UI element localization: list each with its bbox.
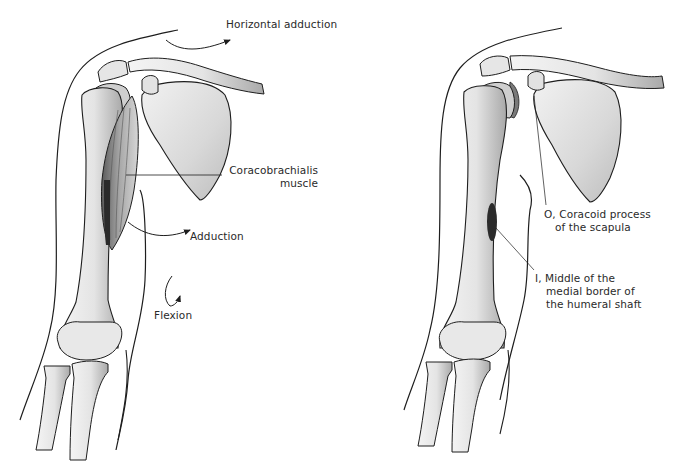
adduction-arrow — [128, 222, 190, 236]
label-text: Horizontal adduction — [226, 18, 337, 30]
right-scapula — [534, 80, 621, 202]
left-coracoid — [142, 76, 158, 95]
label-text: Flexion — [154, 309, 192, 321]
left-acromion — [98, 60, 128, 82]
label-text: the humeral shaft — [535, 298, 641, 311]
right-elbow — [439, 322, 506, 360]
label-flexion: Flexion — [154, 309, 192, 322]
label-horizontal-adduction: Horizontal adduction — [226, 18, 337, 31]
label-text: O, Coracoid process — [544, 208, 651, 221]
label-text: of the scapula — [544, 221, 651, 234]
horizontal-adduction-arrow — [166, 40, 230, 49]
insertion-mark — [487, 203, 497, 241]
left-elbow — [57, 322, 122, 360]
label-origin: O, Coracoid process of the scapula — [544, 208, 651, 234]
anatomy-figure: Horizontal adduction Coracobrachialis mu… — [0, 0, 690, 470]
flexion-arrow — [165, 276, 180, 306]
label-text: I, Middle of the — [535, 272, 641, 285]
label-insertion: I, Middle of the medial border of the hu… — [535, 272, 641, 311]
left-arm-drawing — [20, 30, 264, 460]
label-text: medial border of — [535, 285, 641, 298]
right-acromion — [480, 56, 510, 76]
label-coracobrachialis-muscle: Coracobrachialis muscle — [218, 164, 318, 190]
right-arm-drawing — [404, 28, 664, 452]
illustration — [0, 0, 690, 470]
label-text: muscle — [218, 177, 318, 190]
left-radius — [36, 366, 70, 450]
right-ulna — [452, 359, 490, 452]
label-text: Adduction — [190, 230, 244, 242]
right-armpit-outline — [500, 175, 532, 400]
label-adduction: Adduction — [190, 230, 244, 243]
right-coracoid — [528, 72, 544, 91]
right-radius — [418, 362, 452, 446]
label-text: Coracobrachialis — [218, 164, 318, 177]
left-ulna — [70, 361, 108, 460]
